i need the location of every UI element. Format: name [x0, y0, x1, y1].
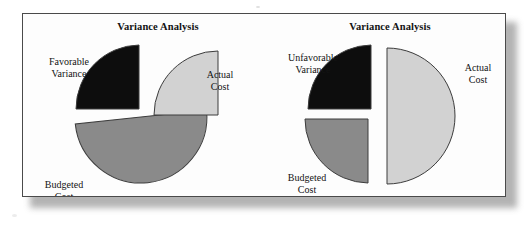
slice-label-budgeted-cost: Budgeted Cost: [29, 179, 99, 197]
slice-label-line1: Favorable: [49, 56, 89, 67]
slice-label-line1: Budgeted: [288, 172, 326, 183]
slice-label-line1: Actual: [465, 62, 492, 73]
figure-frame: Variance Analysis Favorable Variance Act…: [22, 13, 506, 197]
scan-speck: [256, 6, 260, 8]
slice-label-actual-cost: Actual Cost: [451, 62, 505, 86]
slice-label-line2: Cost: [191, 81, 249, 93]
pie-slice-budgeted-cost[interactable]: [75, 110, 213, 189]
slice-label-budgeted-cost: Budgeted Cost: [271, 172, 343, 196]
slice-label-line2: Cost: [271, 184, 343, 196]
pie-chart-right: [265, 14, 506, 197]
chart-panel-right: Variance Analysis Unfavorable Variance A…: [265, 14, 506, 196]
slice-label-unfavorable-variance: Unfavorable Variance: [271, 52, 355, 76]
slice-label-line1: Unfavorable: [288, 52, 338, 63]
chart-panel-left: Variance Analysis Favorable Variance Act…: [23, 14, 265, 196]
pie-slice-actual-cost[interactable]: [387, 48, 455, 184]
pie-chart-left: [23, 14, 265, 197]
slice-label-actual-cost: Actual Cost: [191, 69, 249, 93]
slice-label-line2: Variance: [271, 64, 355, 76]
slice-label-line2: Cost: [451, 74, 505, 86]
scan-speck: [12, 214, 17, 217]
slice-label-line2: Variance: [35, 68, 103, 80]
scanned-figure-page: Variance Analysis Favorable Variance Act…: [0, 0, 524, 235]
slice-label-favorable-variance: Favorable Variance: [35, 56, 103, 80]
slice-label-line1: Actual: [207, 69, 234, 80]
slice-label-line1: Budgeted: [45, 179, 83, 190]
slice-label-line2: Cost: [29, 191, 99, 197]
